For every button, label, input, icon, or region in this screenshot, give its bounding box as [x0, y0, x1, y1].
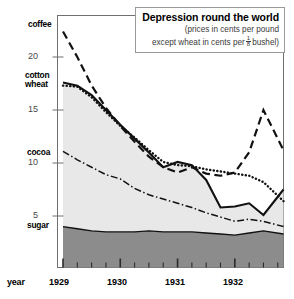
x-tick-label-1932: 1932 — [223, 277, 243, 287]
subtitle-pre-text: except wheat in cents per — [152, 38, 245, 47]
chart-subtitle-line1: (prices in cents per pound — [141, 25, 279, 36]
series-label-wheat: wheat — [25, 80, 48, 90]
depression-chart: Depression round the world (prices in ce… — [0, 0, 294, 299]
y-tick-label-15: 15 — [18, 104, 38, 114]
y-tick-label-5: 5 — [18, 210, 38, 220]
series-label-cocoa: cocoa — [27, 148, 50, 158]
area-fill-body — [63, 82, 284, 235]
series-label-sugar: sugar — [27, 221, 49, 231]
chart-title-box: Depression round the world (prices in ce… — [135, 7, 285, 53]
y-tick-label-20: 20 — [18, 51, 38, 61]
fraction-one-eighth: 18 — [246, 36, 251, 47]
fraction-denominator: 8 — [246, 42, 251, 47]
subtitle-post-text: bushel) — [252, 38, 279, 47]
x-tick-label-1931: 1931 — [165, 277, 185, 287]
chart-subtitle-line2: except wheat in cents per18bushel) — [141, 36, 279, 49]
x-tick-label-1929: 1929 — [49, 277, 69, 287]
y-tick-label-10: 10 — [18, 157, 38, 167]
series-label-coffee: coffee — [28, 20, 51, 30]
x-axis-title: year — [7, 277, 25, 287]
page-title: Depression round the world — [141, 11, 279, 23]
x-tick-label-1930: 1930 — [107, 277, 127, 287]
